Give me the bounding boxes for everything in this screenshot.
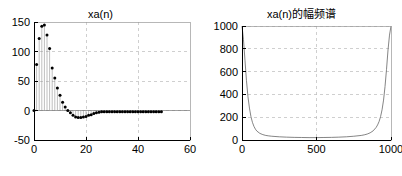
x-tick-label-left: 60 bbox=[184, 143, 196, 155]
y-tick-label-left: 0 bbox=[24, 105, 30, 117]
y-tick-label-right: 200 bbox=[220, 111, 238, 123]
y-tick-label-left: 50 bbox=[18, 75, 30, 87]
x-tick-label-right: 0 bbox=[239, 143, 245, 155]
y-tick-label-left: 100 bbox=[12, 46, 30, 58]
x-tick-label-left: 20 bbox=[80, 143, 92, 155]
grid-lines-right bbox=[242, 26, 391, 140]
y-tick-label-right: 1000 bbox=[214, 20, 238, 32]
y-tick-label-left: 150 bbox=[12, 16, 30, 28]
panel-amplitude-spectrum: xa(n)的幅频谱 0200400600800100005001000 bbox=[201, 0, 402, 176]
stem-lines bbox=[37, 25, 162, 118]
y-tick-label-left: -50 bbox=[14, 134, 30, 146]
plot-area-right: 0200400600800100005001000 bbox=[201, 0, 402, 176]
stem-plot-svg: -500501001500204060 bbox=[0, 0, 201, 176]
plot-area-left: -500501001500204060 bbox=[0, 0, 201, 176]
x-tick-label-right: 1000 bbox=[379, 143, 402, 155]
figure-canvas: xa(n) -500501001500204060 xa(n)的幅频谱 0200… bbox=[0, 0, 402, 176]
y-tick-label-right: 800 bbox=[220, 43, 238, 55]
x-tick-label-left: 40 bbox=[132, 143, 144, 155]
y-tick-label-right: 400 bbox=[220, 88, 238, 100]
grid-lines-left bbox=[34, 22, 190, 140]
spectrum-plot-svg: 0200400600800100005001000 bbox=[201, 0, 402, 176]
y-tick-label-right: 600 bbox=[220, 66, 238, 78]
x-tick-label-left: 0 bbox=[31, 143, 37, 155]
y-tick-label-right: 0 bbox=[232, 134, 238, 146]
panel-xa-n: xa(n) -500501001500204060 bbox=[0, 0, 201, 176]
x-tick-label-right: 500 bbox=[307, 143, 325, 155]
